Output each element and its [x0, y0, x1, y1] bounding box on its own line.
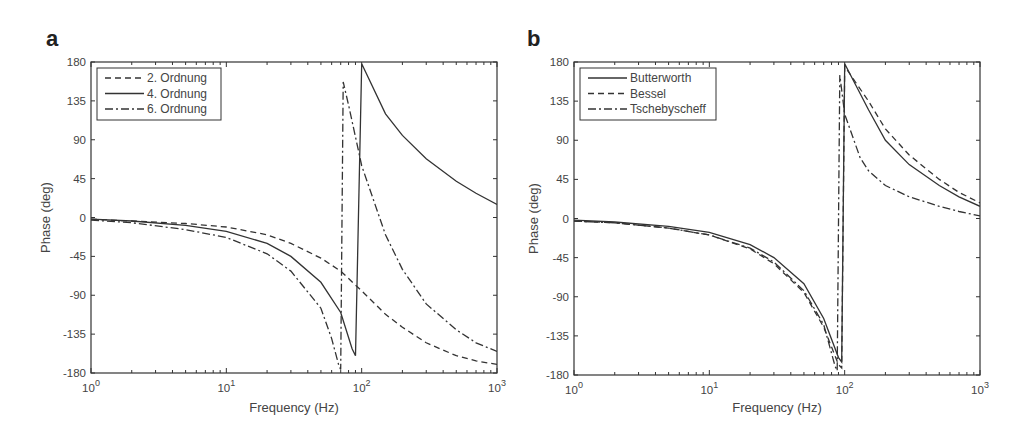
y-tick-label: 135 [550, 95, 569, 107]
chart-a: 18013590450-45-90-135-180100101102103Fre… [38, 56, 506, 415]
y-tick-label: 90 [556, 134, 569, 146]
y-axis-title: Phase (deg) [38, 182, 53, 253]
x-tick-label: 101 [217, 378, 235, 394]
y-tick-label: -135 [63, 328, 86, 340]
series-line-6-ordnung [91, 82, 497, 370]
y-tick-label: 180 [67, 56, 86, 68]
y-tick-label: 135 [67, 95, 86, 107]
x-tick-label: 103 [488, 378, 506, 394]
y-tick-label: 45 [556, 173, 569, 185]
x-tick-label: 101 [700, 380, 718, 396]
y-tick-label: -90 [552, 291, 569, 303]
y-tick-label: 45 [73, 173, 86, 185]
y-tick-label: 90 [73, 134, 86, 146]
legend-entry: 4. Ordnung [147, 87, 207, 101]
y-tick-label: 0 [80, 212, 86, 224]
x-tick-label: 100 [565, 380, 583, 396]
y-tick-label: 0 [563, 213, 569, 225]
x-tick-label: 102 [836, 380, 854, 396]
legend-entry: Tschebyscheff [630, 102, 706, 116]
x-tick-label: 103 [971, 380, 989, 396]
chart-b: 18013590450-45-90-135-180100101102103Fre… [526, 56, 989, 415]
y-tick-label: -180 [63, 367, 86, 379]
y-tick-label: 180 [550, 56, 569, 68]
figure-canvas: 18013590450-45-90-135-180100101102103Fre… [0, 0, 1030, 432]
series-line-2-ordnung [91, 219, 497, 364]
y-tick-label: -45 [552, 252, 569, 264]
legend-entry: 6. Ordnung [147, 102, 207, 116]
x-tick-label: 102 [353, 378, 371, 394]
x-axis-title: Frequency (Hz) [249, 400, 339, 415]
legend-entry: 2. Ordnung [147, 71, 207, 85]
legend: 2. Ordnung4. Ordnung6. Ordnung [97, 68, 221, 120]
x-tick-label: 100 [82, 378, 100, 394]
legend-entry: Butterworth [630, 71, 691, 85]
y-tick-label: -135 [546, 330, 569, 342]
y-axis-title: Phase (deg) [526, 183, 541, 254]
y-tick-label: -45 [69, 250, 86, 262]
x-axis-title: Frequency (Hz) [732, 400, 822, 415]
legend-entry: Bessel [630, 87, 666, 101]
legend: ButterworthBesselTschebyscheff [580, 68, 716, 120]
y-tick-label: -180 [546, 369, 569, 381]
y-tick-label: -90 [69, 289, 86, 301]
